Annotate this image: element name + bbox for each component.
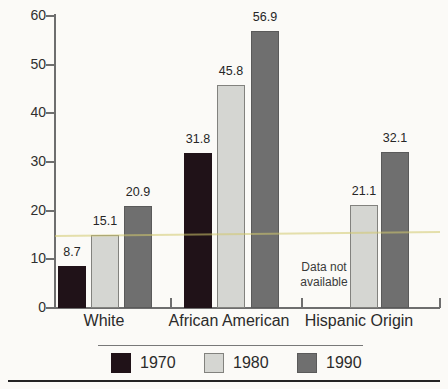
legend-swatch-1970 (111, 353, 131, 373)
bar-1990-african-american (251, 31, 279, 308)
x-axis-tick (170, 298, 172, 308)
y-tick-label: 0 (12, 300, 46, 314)
bar-1970-white (58, 266, 86, 308)
legend-top-rule (98, 345, 363, 346)
x-axis-tick (301, 298, 303, 308)
bar-chart-figure: 01020304050608.731.8Data not available15… (0, 0, 448, 389)
y-axis-tick (46, 15, 54, 17)
legend: 197019801990 (0, 340, 448, 380)
y-axis-tick (46, 112, 54, 114)
bar-1970-african-american (184, 153, 212, 308)
bar-value-label: 21.1 (342, 185, 386, 198)
legend-label-1990: 1990 (326, 354, 386, 372)
y-tick-label: 10 (12, 251, 46, 265)
bottom-rule (8, 380, 440, 382)
bar-value-label: 45.8 (209, 65, 253, 78)
y-axis-tick (46, 161, 54, 163)
bar-1980-african-american (217, 85, 245, 308)
bar-value-label: 31.8 (176, 133, 220, 146)
legend-swatch-1990 (297, 353, 317, 373)
missing-data-note: Data not available (292, 260, 356, 289)
y-axis-tick (46, 64, 54, 66)
bar-value-label: 32.1 (373, 132, 417, 145)
y-tick-label: 50 (12, 57, 46, 71)
bar-value-label: 20.9 (116, 186, 160, 199)
legend-label-1970: 1970 (140, 354, 200, 372)
x-axis-tick (439, 298, 441, 308)
x-category-label: Hispanic Origin (279, 313, 439, 329)
y-tick-label: 60 (12, 8, 46, 22)
bar-value-label: 56.9 (243, 11, 287, 24)
bar-1990-white (124, 206, 152, 308)
bar-1990-hispanic-origin (381, 152, 409, 308)
y-tick-label: 40 (12, 105, 46, 119)
bar-value-label: 8.7 (50, 246, 94, 259)
y-axis-tick (46, 307, 54, 309)
y-tick-label: 20 (12, 203, 46, 217)
legend-label-1980: 1980 (233, 354, 293, 372)
bar-1980-white (91, 235, 119, 308)
legend-swatch-1980 (204, 353, 224, 373)
y-axis-tick (46, 210, 54, 212)
y-axis-line (54, 14, 56, 308)
bar-1980-hispanic-origin (350, 205, 378, 308)
bar-value-label: 15.1 (83, 215, 127, 228)
plot-area: 01020304050608.731.8Data not available15… (0, 0, 448, 340)
y-tick-label: 30 (12, 154, 46, 168)
